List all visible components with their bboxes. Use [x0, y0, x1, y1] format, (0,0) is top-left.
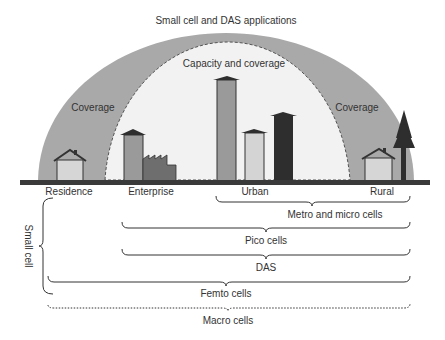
bracket-macro [48, 304, 410, 311]
location-residence: Residence [45, 186, 93, 197]
bracket-small-cell [39, 198, 53, 294]
bracket-label-femto: Femto cells [200, 288, 251, 299]
bracket-das [122, 249, 410, 259]
diagram-title: Small cell and DAS applications [155, 15, 296, 26]
bracket-label-metro-micro: Metro and micro cells [287, 209, 382, 220]
bracket-label-das: DAS [256, 262, 277, 273]
bracket-femto [48, 276, 410, 286]
bracket-metro-micro [216, 196, 410, 206]
side-label-small-cell: Small cell [23, 225, 34, 268]
zone-label-coverage-left: Coverage [71, 102, 115, 113]
location-rural: Rural [370, 186, 394, 197]
diagram-canvas: Small cell and DAS applications Capacity… [0, 0, 445, 340]
bracket-label-pico: Pico cells [245, 235, 287, 246]
bracket-label-macro: Macro cells [203, 315, 254, 326]
zone-label-coverage-right: Coverage [335, 102, 379, 113]
location-enterprise: Enterprise [128, 186, 174, 197]
ground-line [20, 180, 430, 185]
location-urban: Urban [241, 186, 268, 197]
zone-label-capacity: Capacity and coverage [183, 58, 286, 69]
bracket-pico [122, 222, 410, 232]
